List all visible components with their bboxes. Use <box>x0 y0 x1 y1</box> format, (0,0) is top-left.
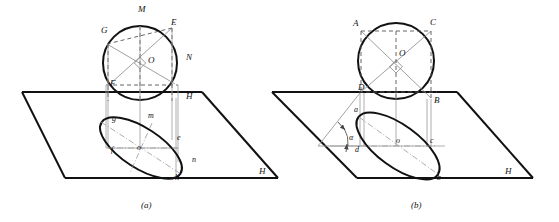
label-e: e <box>177 133 181 142</box>
caption-a: (a) <box>141 200 152 210</box>
label-o-b: o <box>396 136 400 145</box>
label-O-b: O <box>399 48 406 58</box>
label-b-low: b <box>437 173 441 182</box>
label-n: n <box>192 155 196 164</box>
label-G: G <box>101 25 108 35</box>
label-h: h <box>175 173 179 182</box>
label-m: m <box>148 111 154 120</box>
label-O-a: O <box>148 55 155 65</box>
label-B: B <box>434 95 440 105</box>
plane-edge-right-a <box>202 92 278 178</box>
label-o-a: o <box>137 143 141 152</box>
alpha-arrow-down-b <box>346 144 347 152</box>
alpha-hypotenuse-b <box>318 93 360 146</box>
label-E: E <box>170 17 177 27</box>
plane-h-a <box>22 92 278 178</box>
label-alpha: α <box>349 133 354 142</box>
plane-edge-right-b <box>457 92 533 178</box>
label-M: M <box>137 4 146 14</box>
plane-h-b <box>272 92 533 178</box>
technical-drawing-figure: M G E N O F H g m f o e n h H A C O D B … <box>0 0 559 222</box>
label-F: F <box>109 78 116 88</box>
label-H-point: H <box>185 91 193 101</box>
plane-label-b: H <box>504 166 512 176</box>
label-N: N <box>185 52 193 62</box>
label-A: A <box>352 18 359 28</box>
label-C: C <box>430 17 437 27</box>
diagonal-fe-a <box>110 28 172 84</box>
alpha-arc-b <box>344 128 348 146</box>
plane-edge-left-b <box>272 92 357 178</box>
label-a-low: a <box>354 105 358 114</box>
drawing-canvas: M G E N O F H g m f o e n h H A C O D B … <box>0 0 559 222</box>
plane-label-a: H <box>258 166 266 176</box>
label-g: g <box>112 114 116 123</box>
label-c: c <box>430 136 434 145</box>
dash-ge-a <box>107 28 172 44</box>
plane-edge-left-a <box>22 92 65 178</box>
label-D: D <box>357 82 365 92</box>
panel-a <box>22 26 278 190</box>
alpha-arrow-up-b <box>338 122 345 130</box>
caption-b: (b) <box>411 200 422 210</box>
angle-alpha-triangle-b <box>318 93 360 152</box>
